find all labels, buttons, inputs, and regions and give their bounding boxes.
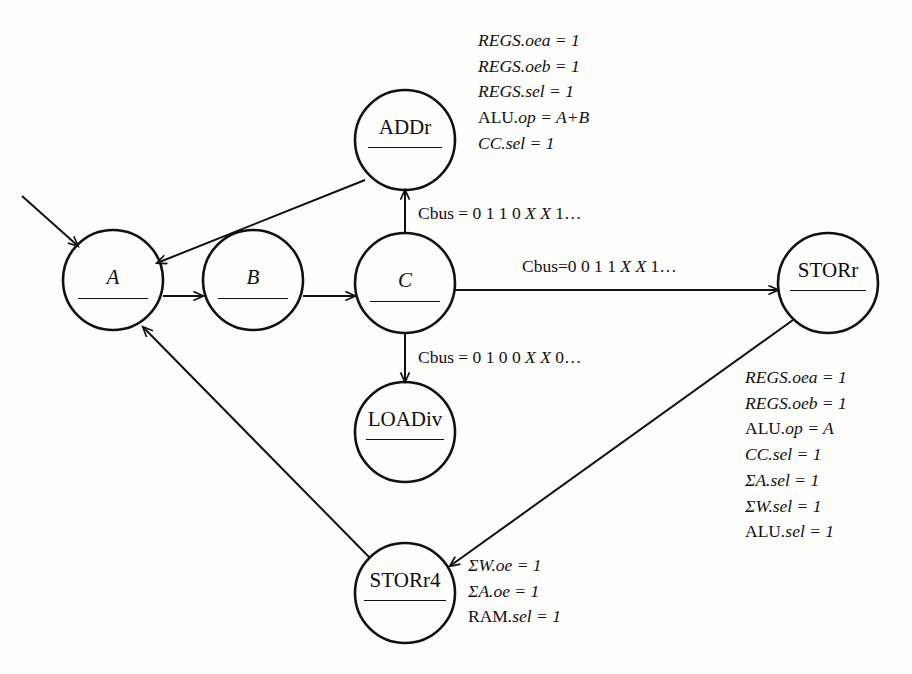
annotation-signal-value: .sel = 1 bbox=[768, 444, 821, 464]
annotation-line: REGS.oea = 1 bbox=[478, 28, 589, 54]
annotation-storr4-actions: ΣW.oe = 1ΣA.oe = 1RAM.sel = 1 bbox=[468, 553, 561, 630]
annotation-signal-name: REGS bbox=[745, 393, 788, 413]
edge-label-text-pre: Cbus=0 0 1 1 bbox=[522, 256, 620, 276]
annotation-signal-name: ΣW bbox=[745, 496, 768, 516]
transition-ADDr-to-A bbox=[157, 180, 365, 263]
annotation-line: ΣW.sel = 1 bbox=[745, 494, 847, 520]
diagram-vector-layer bbox=[0, 0, 912, 674]
state-circle-LOADiv[interactable] bbox=[355, 382, 455, 482]
state-diagram-canvas: A B C ADDr LOADiv STORr STORr4 Cbus = 0 … bbox=[0, 0, 912, 674]
annotation-signal-value: .op = A bbox=[781, 418, 834, 438]
annotation-signal-name: ΣA bbox=[468, 581, 489, 601]
annotation-signal-value: .oeb = 1 bbox=[521, 56, 580, 76]
annotation-signal-name: RAM bbox=[468, 606, 508, 626]
annotation-signal-value: .oeb = 1 bbox=[788, 393, 847, 413]
state-label-B: B bbox=[247, 267, 260, 288]
annotation-signal-value: .op = A+B bbox=[514, 107, 589, 127]
annotation-signal-value: .sel = 1 bbox=[768, 496, 821, 516]
annotation-signal-value: .sel = 1 bbox=[501, 133, 554, 153]
edge-label-text-pre: Cbus = 0 1 1 0 bbox=[418, 203, 525, 223]
edge-label-text-post: 1… bbox=[551, 203, 582, 223]
annotation-line: ΣW.oe = 1 bbox=[468, 553, 561, 579]
annotation-line: REGS.sel = 1 bbox=[478, 79, 589, 105]
annotation-signal-value: .sel = 1 bbox=[521, 81, 574, 101]
state-underline-C bbox=[370, 301, 440, 302]
annotation-signal-name: ALU bbox=[745, 521, 781, 541]
annotation-line: ALU.op = A+B bbox=[478, 105, 589, 131]
annotation-signal-name: CC bbox=[745, 444, 768, 464]
annotation-signal-name: REGS bbox=[745, 367, 788, 387]
state-underline-STORr bbox=[790, 290, 866, 291]
edge-label-text-dontcare: X X bbox=[525, 347, 551, 367]
annotation-line: ALU.sel = 1 bbox=[745, 519, 847, 545]
annotation-signal-value: .oea = 1 bbox=[788, 367, 847, 387]
edge-label-c-to-loadiv: Cbus = 0 1 0 0 X X 0… bbox=[418, 349, 582, 367]
state-underline-STORr4 bbox=[364, 600, 446, 601]
annotation-signal-name: ΣA bbox=[745, 470, 766, 490]
state-label-C: C bbox=[398, 270, 412, 291]
annotation-line: REGS.oea = 1 bbox=[745, 365, 847, 391]
state-label-ADDr: ADDr bbox=[379, 117, 432, 138]
annotation-line: ALU.op = A bbox=[745, 416, 847, 442]
edge-label-text-post: 0… bbox=[551, 347, 582, 367]
annotation-signal-value: .oe = 1 bbox=[489, 581, 539, 601]
state-underline-LOADiv bbox=[366, 439, 444, 440]
edge-label-c-to-addr: Cbus = 0 1 1 0 X X 1… bbox=[418, 205, 582, 223]
state-circle-ADDr[interactable] bbox=[355, 90, 455, 190]
annotation-signal-value: .oe = 1 bbox=[491, 555, 541, 575]
annotation-line: RAM.sel = 1 bbox=[468, 604, 561, 630]
transition-STORr4-to-A bbox=[143, 327, 370, 558]
annotation-line: CC.sel = 1 bbox=[745, 442, 847, 468]
state-label-LOADiv: LOADiv bbox=[368, 409, 443, 430]
annotation-addr-actions: REGS.oea = 1REGS.oeb = 1REGS.sel = 1ALU.… bbox=[478, 28, 589, 157]
annotation-signal-name: REGS bbox=[478, 81, 521, 101]
annotation-signal-value: .oea = 1 bbox=[521, 30, 580, 50]
edge-label-text-dontcare: X X bbox=[525, 203, 551, 223]
annotation-signal-name: REGS bbox=[478, 56, 521, 76]
annotation-signal-name: ALU bbox=[478, 107, 514, 127]
edge-label-c-to-storr: Cbus=0 0 1 1 X X 1… bbox=[522, 258, 677, 276]
annotation-signal-name: REGS bbox=[478, 30, 521, 50]
annotation-signal-name: ALU bbox=[745, 418, 781, 438]
annotation-line: CC.sel = 1 bbox=[478, 131, 589, 157]
annotation-storr-actions: REGS.oea = 1REGS.oeb = 1ALU.op = ACC.sel… bbox=[745, 365, 847, 545]
edge-label-text-post: 1… bbox=[646, 256, 677, 276]
state-circle-STORr[interactable] bbox=[778, 233, 878, 333]
annotation-line: REGS.oeb = 1 bbox=[478, 54, 589, 80]
transition-start-to-A bbox=[22, 196, 78, 246]
annotation-line: ΣA.oe = 1 bbox=[468, 579, 561, 605]
edge-label-text-dontcare: X X bbox=[620, 256, 646, 276]
state-label-STORr4: STORr4 bbox=[370, 570, 441, 591]
annotation-signal-name: CC bbox=[478, 133, 501, 153]
state-underline-ADDr bbox=[368, 147, 442, 148]
annotation-signal-value: .sel = 1 bbox=[781, 521, 834, 541]
state-underline-B bbox=[218, 298, 288, 299]
annotation-signal-value: .sel = 1 bbox=[766, 470, 819, 490]
annotation-line: REGS.oeb = 1 bbox=[745, 391, 847, 417]
state-underline-A bbox=[78, 298, 148, 299]
state-label-A: A bbox=[107, 267, 120, 288]
annotation-signal-value: .sel = 1 bbox=[508, 606, 561, 626]
edge-label-text-pre: Cbus = 0 1 0 0 bbox=[418, 347, 525, 367]
state-label-STORr: STORr bbox=[798, 260, 858, 281]
annotation-signal-name: ΣW bbox=[468, 555, 491, 575]
annotation-line: ΣA.sel = 1 bbox=[745, 468, 847, 494]
